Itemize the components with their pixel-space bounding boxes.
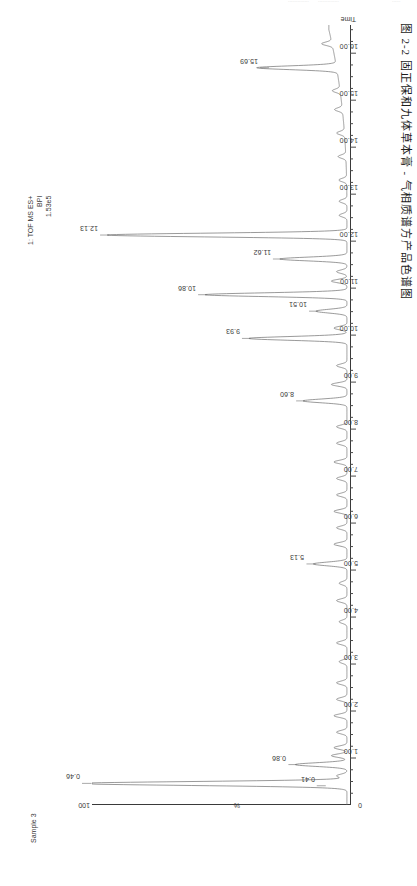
x-tick-label: 4.00 xyxy=(344,607,358,614)
peak-label: 10.51 xyxy=(289,301,307,308)
peak-label: 11.62 xyxy=(253,249,271,256)
figure-caption: 图 2-2 固正保和九体草本膏 - 气相质谱方产品色谱图 xyxy=(399,23,415,300)
x-tick-label: 7.00 xyxy=(344,466,358,473)
x-tick-label: 3.00 xyxy=(344,654,358,661)
x-tick-label: 16.00 xyxy=(339,43,358,50)
x-tick-label: 14.00 xyxy=(339,137,358,144)
x-tick-label: 2.00 xyxy=(344,701,358,708)
peak-label: 15.69 xyxy=(240,58,258,65)
x-tick-label: 13.00 xyxy=(339,184,358,191)
peak-label: 8.60 xyxy=(280,391,294,398)
peak-label: 5.13 xyxy=(290,554,304,561)
chromatogram-plot-area: 1: TOF MS ES+ BPI 1.53e5 Sample 3 100 % … xyxy=(0,0,417,845)
x-tick-label: 10.00 xyxy=(339,325,358,332)
peak-label: 0.86 xyxy=(272,755,286,762)
x-axis-title: Time xyxy=(341,16,356,23)
peak-label: 0.41 xyxy=(301,776,315,783)
x-tick-label: 15.00 xyxy=(339,90,358,97)
peak-label: 0.46 xyxy=(66,773,80,780)
peak-label: 10.86 xyxy=(178,285,196,292)
x-tick-label: 6.00 xyxy=(344,513,358,520)
x-tick-label: 1.00 xyxy=(344,748,358,755)
x-tick-label: 9.00 xyxy=(344,372,358,379)
x-tick-label: 5.00 xyxy=(344,560,358,567)
x-tick-label: 8.00 xyxy=(344,419,358,426)
peak-label: 9.93 xyxy=(226,328,240,335)
peak-label: 12.13 xyxy=(80,225,98,232)
chromatogram-figure: 1: TOF MS ES+ BPI 1.53e5 Sample 3 100 % … xyxy=(0,0,417,845)
x-tick-label: 12.00 xyxy=(339,231,358,238)
x-tick-label: 11.00 xyxy=(340,278,358,285)
